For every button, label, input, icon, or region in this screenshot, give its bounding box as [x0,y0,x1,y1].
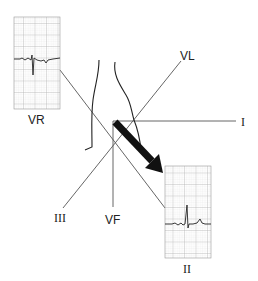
lead-line-vl-iii [63,61,181,208]
lead-label-i: I [241,115,245,129]
cardiac-axis-arrow [115,122,163,173]
lead-label-iii: III [54,211,66,225]
lead-label-vf: VF [105,213,120,227]
hexaxial-diagram: VR VL I III VF II [0,0,258,281]
lead-label-vr: VR [28,113,45,127]
ecg-strip-ii [165,166,211,258]
lead-label-ii: II [183,262,191,276]
lead-label-vl: VL [180,49,195,63]
ecg-strip-vr [14,17,60,109]
lead-line-vr-ii [60,70,165,208]
